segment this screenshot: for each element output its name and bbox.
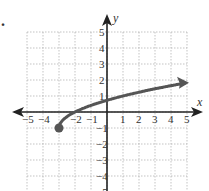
svg-text:3: 3 (99, 58, 105, 70)
svg-text:−4: −4 (38, 113, 50, 125)
svg-text:1: 1 (120, 113, 126, 125)
svg-text:3: 3 (152, 113, 158, 125)
svg-text:−4: −4 (96, 170, 108, 182)
svg-text:−5: −5 (96, 186, 108, 191)
svg-text:y: y (112, 11, 119, 25)
svg-text:4: 4 (99, 42, 105, 54)
tick-labels: −5−4−2−11234554321−1−2−3−4−5 (22, 26, 190, 191)
svg-text:5: 5 (184, 113, 190, 125)
svg-text:−2: −2 (96, 138, 108, 150)
svg-text:4: 4 (168, 113, 174, 125)
svg-text:−1: −1 (96, 122, 108, 134)
function-graph: xy −5−4−2−11234554321−1−2−3−4−5 (0, 0, 209, 191)
svg-text:−3: −3 (96, 154, 108, 166)
svg-text:5: 5 (99, 26, 105, 38)
svg-text:2: 2 (99, 74, 105, 86)
svg-text:2: 2 (136, 113, 142, 125)
svg-text:−5: −5 (22, 113, 34, 125)
svg-text:x: x (196, 95, 203, 109)
